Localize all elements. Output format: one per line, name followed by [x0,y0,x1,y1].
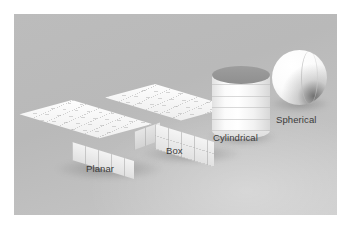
shape-label-spherical: Spherical [276,114,317,125]
shape-spherical [270,50,332,120]
shape-label-cylindrical: Cylindrical [213,132,258,143]
shape-label-box: Box [166,145,183,156]
sphere-body [272,50,327,105]
shape-types-figure: Planar Box Cylindrical Spherical [0,0,350,231]
sphere-meridian-line [301,51,318,104]
shape-label-planar: Planar [86,163,114,174]
figure-backdrop-panel: Planar Box Cylindrical Spherical [14,14,337,215]
cylinder-top-cap [212,66,270,84]
shapes-scene: Planar Box Cylindrical Spherical [14,14,337,215]
